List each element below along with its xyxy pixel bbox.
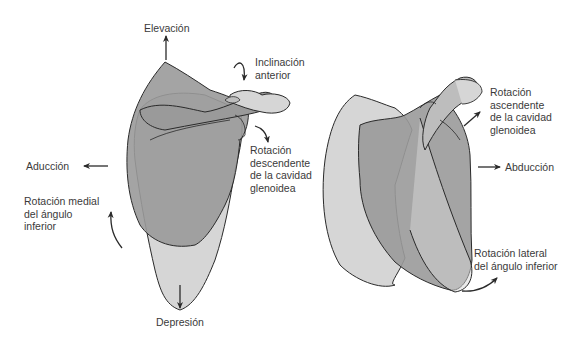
label-upward-rotation: Rotación ascendente de la cavidad glenoi… <box>490 86 552 136</box>
label-downward-rotation: Rotación descendente de la cavidad gleno… <box>250 144 312 194</box>
label-elevation: Elevación <box>144 22 190 35</box>
label-anterior-tilt: Inclinación anterior <box>255 56 305 81</box>
label-depression: Depresión <box>156 316 204 329</box>
anterior-tilt-arrow <box>234 63 244 80</box>
label-medial-rotation: Rotación medial del ángulo inferior <box>24 195 99 233</box>
label-lateral-rotation: Rotación lateral del ángulo inferior <box>474 247 557 272</box>
label-adduction: Aducción <box>26 160 69 173</box>
downward-rotation-arrow <box>255 126 268 142</box>
label-abduction: Abducción <box>505 161 554 174</box>
scapula-dark-left <box>127 62 249 246</box>
right-scapula-illustration <box>323 77 482 292</box>
upward-rotation-arrow <box>464 112 480 126</box>
medial-rotation-arrow <box>111 212 122 248</box>
